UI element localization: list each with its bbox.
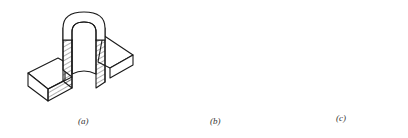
- panel-a-drawing: [28, 12, 133, 101]
- caption-b: (b): [210, 116, 221, 126]
- section-views-figure: [0, 0, 408, 138]
- caption-a: (a): [78, 116, 89, 126]
- caption-c: (c): [336, 113, 346, 123]
